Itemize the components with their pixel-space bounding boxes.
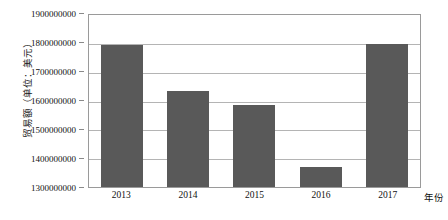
bar-2016 xyxy=(300,167,342,187)
bar-slot xyxy=(354,15,420,187)
bar-2017 xyxy=(366,44,408,187)
bar-slot xyxy=(155,15,221,187)
bar-2013 xyxy=(101,45,143,187)
y-tick-text: 1800000000 xyxy=(31,38,76,48)
x-tick-label: 2016 xyxy=(288,190,355,200)
y-tick-label: 1600000000 xyxy=(12,96,84,106)
x-axis-tick-labels: 2013 2014 2015 2016 2017 xyxy=(88,190,421,200)
y-tick-mark xyxy=(79,187,84,188)
y-tick-mark xyxy=(79,13,84,14)
x-axis-title: 年份 xyxy=(424,190,444,204)
bar-slot xyxy=(288,15,354,187)
y-tick-mark xyxy=(79,100,84,101)
y-tick-text: 1400000000 xyxy=(31,154,76,164)
y-tick-label: 1800000000 xyxy=(12,38,84,48)
bar-2015 xyxy=(233,105,275,187)
y-tick-label: 1300000000 xyxy=(12,183,84,193)
y-tick-label: 1400000000 xyxy=(12,154,84,164)
y-tick-mark xyxy=(79,71,84,72)
x-tick-label: 2014 xyxy=(155,190,222,200)
y-tick-text: 1700000000 xyxy=(31,67,76,77)
x-tick-label: 2013 xyxy=(88,190,155,200)
bar-slot xyxy=(89,15,155,187)
y-tick-mark xyxy=(79,158,84,159)
y-tick-text: 1300000000 xyxy=(31,183,76,193)
y-tick-text: 1900000000 xyxy=(31,9,76,19)
bar-series xyxy=(89,15,420,187)
bar-chart: 贸易额（单位：美元） 1900000000 1800000000 1700000… xyxy=(0,0,448,220)
bar-2014 xyxy=(167,91,209,187)
bar-slot xyxy=(221,15,287,187)
plot-area xyxy=(88,14,421,188)
x-tick-label: 2017 xyxy=(354,190,421,200)
y-axis-tick-labels: 1900000000 1800000000 1700000000 1600000… xyxy=(12,0,84,220)
y-tick-label: 1900000000 xyxy=(12,9,84,19)
y-tick-text: 1500000000 xyxy=(31,125,76,135)
y-tick-label: 1500000000 xyxy=(12,125,84,135)
y-tick-text: 1600000000 xyxy=(31,96,76,106)
y-tick-label: 1700000000 xyxy=(12,67,84,77)
y-tick-mark xyxy=(79,129,84,130)
x-tick-label: 2015 xyxy=(221,190,288,200)
y-tick-mark xyxy=(79,42,84,43)
